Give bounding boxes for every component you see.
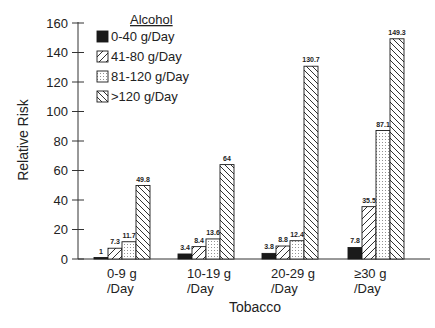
y-tick-label: 80	[54, 134, 68, 149]
bar-value-label: 3.4	[180, 244, 190, 251]
y-tick-label: 60	[54, 163, 68, 178]
bar-value-label: 1	[99, 248, 103, 255]
bar	[390, 39, 404, 259]
bar-value-label: 8.8	[278, 236, 288, 243]
category-label-unit: /Day	[187, 281, 214, 296]
bar	[122, 242, 136, 259]
bar-value-label: 130.7	[302, 56, 320, 63]
legend-item: >120 g/Day	[97, 89, 178, 104]
y-tick-label: 120	[46, 75, 68, 90]
bar	[362, 207, 376, 259]
y-tick-label: 160	[46, 16, 68, 31]
legend-title: Alcohol	[130, 12, 173, 27]
bar-group: 7.835.587.1149.3	[348, 29, 406, 259]
bar-value-label: 11.7	[122, 232, 135, 239]
bar	[262, 253, 276, 259]
legend-label: >120 g/Day	[111, 89, 178, 104]
category-label: ≥30 g	[354, 266, 386, 281]
y-tick-label: 20	[54, 222, 68, 237]
legend-swatch-icon	[97, 51, 108, 62]
y-tick-label: 40	[54, 193, 68, 208]
bar	[348, 247, 362, 259]
bar-value-label: 7.8	[350, 237, 360, 244]
legend-item: 41-80 g/Day	[97, 49, 182, 64]
bar	[304, 66, 318, 259]
bar-value-label: 3.8	[264, 243, 274, 250]
legend: Alcohol 0-40 g/Day41-80 g/Day81-120 g/Da…	[97, 12, 190, 104]
bar-value-label: 64	[223, 155, 231, 162]
legend-label: 0-40 g/Day	[111, 29, 175, 44]
bar	[94, 258, 108, 260]
bar-value-label: 13.6	[206, 229, 220, 236]
y-tick-label: 0	[61, 252, 68, 267]
bar	[108, 248, 122, 259]
category-label-unit: /Day	[271, 281, 298, 296]
category-label: 0-9 g	[107, 266, 137, 281]
legend-item: 0-40 g/Day	[97, 29, 175, 44]
bar	[192, 247, 206, 259]
bar-group: 17.311.749.8	[94, 176, 150, 259]
bar-value-label: 87.1	[376, 121, 390, 128]
bar-group: 3.88.812.4130.7	[262, 56, 320, 259]
bar	[136, 186, 150, 259]
bar	[376, 131, 390, 259]
y-tick-label: 140	[46, 45, 68, 60]
relative-risk-bar-chart: Relative Risk Tobacco 020406080100120140…	[0, 0, 435, 328]
x-axis-title: Tobacco	[229, 299, 281, 315]
bar-value-label: 35.5	[362, 197, 376, 204]
category-label-unit: /Day	[107, 281, 134, 296]
bar-value-label: 8.4	[194, 237, 204, 244]
bar-value-label: 149.3	[388, 29, 406, 36]
bar-value-label: 49.8	[136, 176, 150, 183]
bar	[178, 254, 192, 259]
bar	[276, 246, 290, 259]
legend-label: 81-120 g/Day	[111, 69, 190, 84]
bar	[206, 239, 220, 259]
category-label: 20-29 g	[271, 266, 315, 281]
category-label: 10-19 g	[187, 266, 231, 281]
legend-label: 41-80 g/Day	[111, 49, 182, 64]
y-axis-title: Relative Risk	[15, 98, 31, 181]
legend-swatch-icon	[97, 91, 108, 102]
legend-swatch-icon	[97, 71, 108, 82]
legend-swatch-icon	[97, 31, 108, 42]
bar	[220, 165, 234, 259]
category-labels: 0-9 g/Day10-19 g/Day20-29 g/Day≥30 g/Day	[107, 266, 386, 296]
legend-item: 81-120 g/Day	[97, 69, 190, 84]
bar-group: 3.48.413.664	[178, 155, 234, 259]
bar-value-label: 7.3	[110, 238, 120, 245]
category-label-unit: /Day	[354, 281, 381, 296]
bar	[290, 241, 304, 259]
bar-value-label: 12.4	[290, 231, 304, 238]
y-tick-label: 100	[46, 104, 68, 119]
